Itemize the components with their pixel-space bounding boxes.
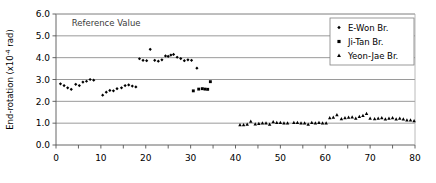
x-tick-label: 80 xyxy=(409,153,421,163)
y-tick-label: 2.0 xyxy=(36,97,51,107)
x-tick-label: 30 xyxy=(185,153,197,163)
legend-label-yeon-jae-br: Yeon-Jae Br. xyxy=(347,51,398,61)
y-axis-title: End-rotation (x10-4 rad) xyxy=(4,29,15,130)
x-tick-label: 0 xyxy=(53,153,59,163)
y-axis-title-text: End-rotation (x10-4 rad) xyxy=(4,29,15,130)
x-tick-label: 20 xyxy=(140,153,152,163)
legend-label-e-won-br: E-Won Br. xyxy=(348,23,389,33)
y-tick-label: 0.0 xyxy=(36,140,51,150)
x-tick-label: 70 xyxy=(364,153,376,163)
data-point xyxy=(209,80,212,83)
x-tick-label: 40 xyxy=(230,153,242,163)
annotations: Reference Value xyxy=(72,18,141,28)
y-axis-ticks: 0.01.02.03.04.05.06.0 xyxy=(36,9,56,150)
x-tick-label: 10 xyxy=(95,153,107,163)
end-rotation-scatter-chart: 0.01.02.03.04.05.06.001020304050607080En… xyxy=(0,0,436,183)
x-axis-ticks: 01020304050607080 xyxy=(53,145,421,163)
legend-marker-square xyxy=(337,40,340,43)
annotation-reference-value: Reference Value xyxy=(72,18,141,28)
y-axis-title-tail: rad) xyxy=(5,29,15,49)
data-point xyxy=(201,87,204,90)
y-tick-label: 3.0 xyxy=(36,75,51,85)
chart-container: 0.01.02.03.04.05.06.001020304050607080En… xyxy=(0,0,436,183)
data-point xyxy=(197,88,200,91)
data-point xyxy=(204,88,207,91)
y-tick-label: 6.0 xyxy=(36,9,51,19)
y-tick-label: 4.0 xyxy=(36,53,51,63)
x-tick-label: 60 xyxy=(320,153,332,163)
y-tick-label: 5.0 xyxy=(36,31,51,41)
legend-label-ji-tan-br: Ji-Tan Br. xyxy=(347,37,384,47)
x-tick-label: 50 xyxy=(275,153,287,163)
y-tick-label: 1.0 xyxy=(36,118,51,128)
y-axis-title-main: End-rotation (x10 xyxy=(5,55,15,129)
data-point xyxy=(192,89,195,92)
legend: E-Won Br.Ji-Tan Br.Yeon-Jae Br. xyxy=(330,18,414,65)
data-point xyxy=(206,88,209,91)
